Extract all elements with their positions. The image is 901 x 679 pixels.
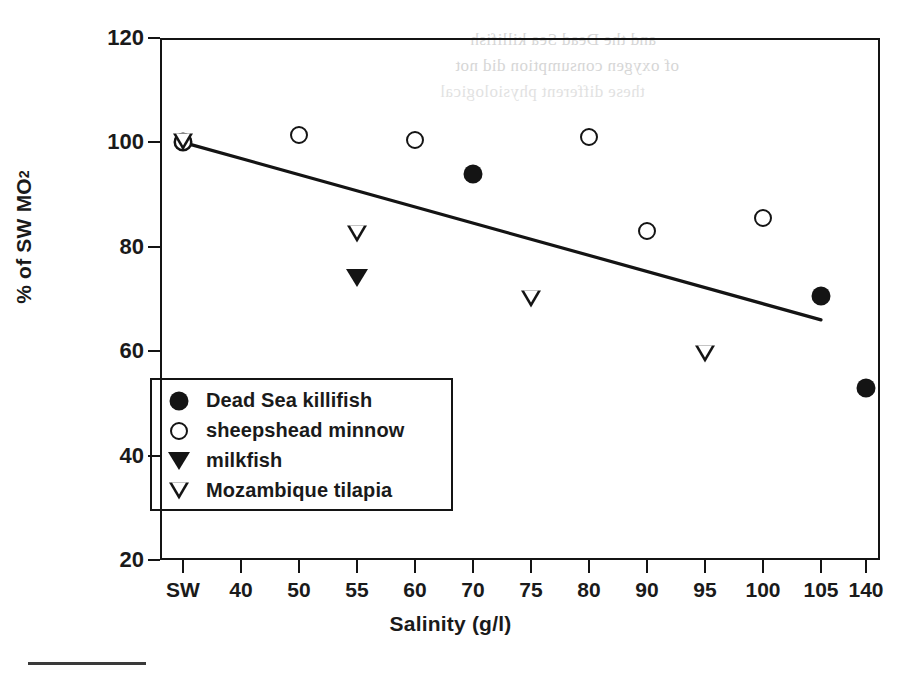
x-tick-mark-100 <box>762 560 764 573</box>
filled-circle-marker-icon <box>857 378 876 397</box>
legend-marker-filled-triangle-icon <box>152 446 206 475</box>
x-tick-mark-105 <box>820 560 822 573</box>
legend-label: sheepshead minnow <box>206 419 404 442</box>
open-triangle-marker-icon <box>695 345 715 362</box>
x-tick-mark-SW <box>182 560 184 573</box>
x-tick-mark-55 <box>356 560 358 573</box>
open-circle-marker-icon <box>580 128 598 146</box>
open-circle-marker-icon <box>754 209 772 227</box>
scatter-chart-figure: % of SW MO2 120 100 80 60 40 20 SW 40 50… <box>0 0 901 679</box>
legend-label: milkfish <box>206 449 282 472</box>
open-triangle-marker-icon <box>173 134 193 151</box>
legend-item-sheepshead-minnow: sheepshead minnow <box>152 416 451 445</box>
x-tick-mark-50 <box>298 560 300 573</box>
legend-label: Mozambique tilapia <box>206 479 392 502</box>
open-triangle-marker-icon <box>347 225 367 242</box>
legend-label: Dead Sea killifish <box>206 389 372 412</box>
x-tick-mark-40 <box>240 560 242 573</box>
chart-legend: Dead Sea killifish sheepshead minnow mil… <box>150 378 453 511</box>
x-tick-mark-95 <box>704 560 706 573</box>
open-triangle-marker-icon <box>521 291 541 308</box>
filled-triangle-marker-icon <box>346 269 368 287</box>
x-tick-mark-70 <box>472 560 474 573</box>
legend-item-dead-sea-killifish: Dead Sea killifish <box>152 386 451 415</box>
legend-marker-open-triangle-icon <box>152 476 206 505</box>
x-tick-mark-60 <box>414 560 416 573</box>
x-tick-mark-140 <box>865 560 867 573</box>
x-tick-mark-90 <box>646 560 648 573</box>
x-tick-label-140: 140 <box>831 578 901 602</box>
x-tick-mark-80 <box>588 560 590 573</box>
open-circle-marker-icon <box>406 131 424 149</box>
legend-marker-filled-circle-icon <box>152 386 206 415</box>
filled-circle-marker-icon <box>812 287 831 306</box>
filled-circle-marker-icon <box>464 164 483 183</box>
open-circle-marker-icon <box>638 222 656 240</box>
legend-item-mozambique-tilapia: Mozambique tilapia <box>152 476 451 505</box>
legend-marker-open-circle-icon <box>152 416 206 445</box>
open-circle-marker-icon <box>290 126 308 144</box>
legend-item-milkfish: milkfish <box>152 446 451 475</box>
x-axis-title: Salinity (g/l) <box>0 612 901 636</box>
x-tick-mark-75 <box>530 560 532 573</box>
